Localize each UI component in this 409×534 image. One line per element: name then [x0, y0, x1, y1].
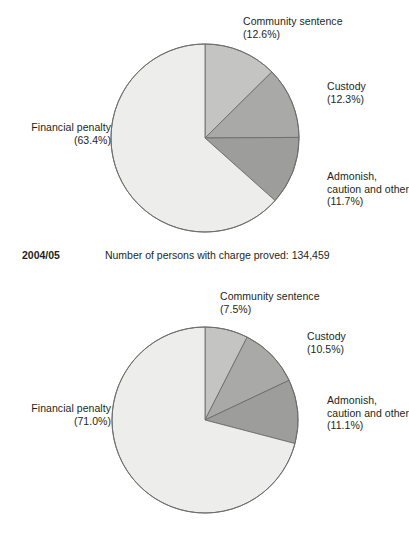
pie-top-label-admonish-caution-other: Admonish, caution and other (11.7%): [327, 170, 409, 208]
caption-text: Number of persons with charge proved: 13…: [105, 248, 330, 262]
label-value: (12.3%): [327, 93, 366, 106]
label-value: (63.4%): [31, 134, 111, 147]
caption-year: 2004/05: [22, 248, 102, 262]
label-value: (7.5%): [220, 303, 320, 316]
label-line: Admonish,: [327, 394, 409, 407]
label-line: Community sentence: [243, 15, 343, 28]
pie-bottom-label-community-sentence: Community sentence (7.5%): [220, 290, 320, 315]
label-line: Custody: [307, 330, 346, 343]
pie-top-label-custody: Custody (12.3%): [327, 80, 366, 105]
label-line: Custody: [327, 80, 366, 93]
label-value: (11.7%): [327, 195, 409, 208]
label-line: Admonish,: [327, 170, 409, 183]
label-line: Community sentence: [220, 290, 320, 303]
pie-top-label-financial-penalty: Financial penalty (63.4%): [31, 121, 111, 146]
pie-bottom-label-financial-penalty: Financial penalty (71.0%): [31, 402, 111, 427]
pie-bottom-label-admonish-caution-other: Admonish, caution and other (11.1%): [327, 394, 409, 432]
label-line: caution and other: [327, 407, 409, 420]
pie-bottom-label-custody: Custody (10.5%): [307, 330, 346, 355]
label-line: Financial penalty: [31, 402, 111, 415]
figure-caption: 2004/05 Number of persons with charge pr…: [22, 248, 330, 262]
pie-chart-top: Community sentence (12.6%) Custody (12.3…: [0, 0, 406, 240]
label-value: (71.0%): [31, 415, 111, 428]
pie-top-label-community-sentence: Community sentence (12.6%): [243, 15, 343, 40]
label-line: caution and other: [327, 183, 409, 196]
label-value: (11.1%): [327, 419, 409, 432]
label-line: Financial penalty: [31, 121, 111, 134]
label-value: (12.6%): [243, 28, 343, 41]
label-value: (10.5%): [307, 343, 346, 356]
